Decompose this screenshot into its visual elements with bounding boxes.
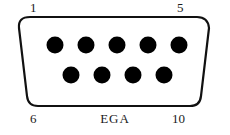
pin-9 (156, 67, 173, 84)
pin-label-top-left: 1 (30, 1, 37, 14)
connector-shell-outline (19, 17, 209, 106)
pin-4 (140, 37, 157, 54)
pin-3 (109, 37, 126, 54)
pin-5 (171, 37, 188, 54)
pin-8 (125, 67, 142, 84)
pin-1 (47, 37, 64, 54)
pin-label-top-right: 5 (177, 1, 184, 14)
connector-name-label: EGA (0, 112, 230, 125)
pin-2 (78, 37, 95, 54)
pin-7 (94, 67, 111, 84)
pin-6 (63, 67, 80, 84)
